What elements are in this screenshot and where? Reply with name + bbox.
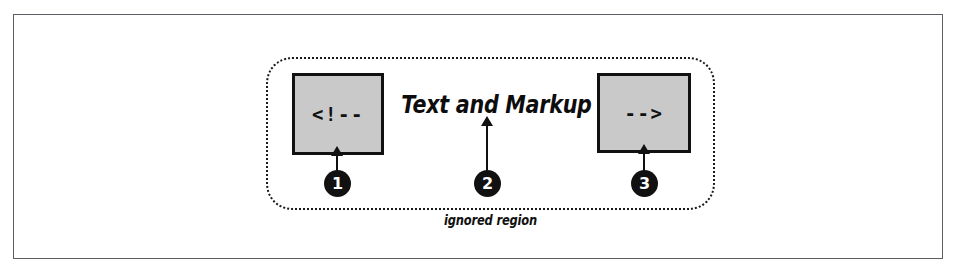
callout-2-arrow-stem — [486, 125, 488, 171]
ignored-region-caption: ignored region — [300, 212, 682, 228]
open-comment-box: <!-- — [292, 73, 384, 155]
callout-marker-2: 2 — [474, 170, 501, 197]
callout-3-arrow-stem — [643, 153, 645, 171]
callout-marker-1: 1 — [324, 170, 351, 197]
headline-text: Text and Markup — [401, 91, 576, 119]
open-comment-code-text: <!-- — [312, 105, 364, 124]
callout-1-arrow-stem — [336, 155, 338, 171]
close-comment-box: --> — [597, 73, 691, 153]
close-comment-code-text: --> — [625, 104, 664, 123]
figure-frame: <!-- Text and Markup --> 1 2 3 ignored r… — [13, 14, 943, 259]
callout-marker-3: 3 — [631, 170, 658, 197]
